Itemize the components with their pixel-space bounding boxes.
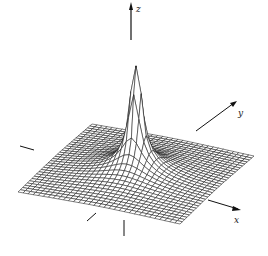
neg-x-axis (87, 213, 96, 221)
x-axis-arrow-icon (232, 206, 241, 211)
z-axis-arrow-icon (129, 2, 133, 10)
y-axis-label: y (237, 108, 244, 118)
y-axis-arrow-icon (230, 101, 237, 107)
x-axis-label: x (234, 215, 239, 225)
z-axis-label: z (135, 4, 141, 14)
y-axis (196, 103, 234, 131)
surface-plot: z y x (0, 0, 268, 256)
wireframe-surface (18, 66, 254, 224)
neg-y-axis (20, 146, 34, 150)
